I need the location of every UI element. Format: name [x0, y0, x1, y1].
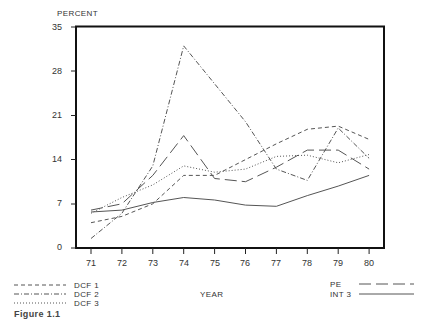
legend-dcf2-label: DCF 2: [74, 290, 99, 299]
plot-frame: [76, 27, 384, 249]
series-group: [91, 46, 369, 239]
series-int-3: [91, 175, 369, 212]
series-pe: [91, 136, 369, 211]
legend-dcf1-label: DCF 1: [74, 281, 99, 290]
legend-int3-label: INT 3: [330, 290, 351, 299]
figure-caption: Figure 1.1: [14, 309, 61, 319]
series-dcf-1: [91, 126, 369, 223]
x-axis-title: YEAR: [200, 290, 223, 299]
legend-pe-label: PE: [330, 280, 341, 289]
legend-dcf3-label: DCF 3: [74, 299, 99, 308]
series-dcf-3: [91, 155, 369, 214]
series-dcf-2: [91, 46, 369, 239]
